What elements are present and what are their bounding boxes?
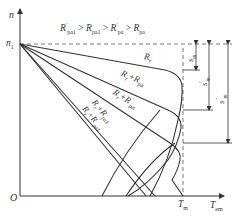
x-axis-label: Tem (210, 201, 223, 212)
y-axis-label: n (9, 10, 14, 20)
label-rr: Rr (143, 52, 153, 64)
n1-label: n1 (6, 39, 14, 50)
label-sm: sm (186, 55, 197, 62)
curve-rr-rpa1-prime (20, 44, 146, 196)
tm-label: Tm (178, 200, 188, 211)
curve-lower-branches (102, 110, 175, 196)
condition-label: R′pa1 > Rpa1 > R′pa > Rpa (60, 22, 145, 35)
label-sm-prime: s′m (199, 78, 211, 87)
origin-label: O (10, 193, 17, 203)
label-sm-double-prime: s″m (216, 94, 228, 104)
